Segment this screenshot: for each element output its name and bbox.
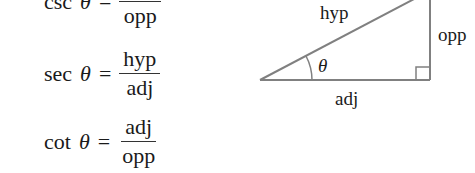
angle-arc bbox=[306, 56, 312, 80]
hypotenuse-label: hyp bbox=[320, 2, 349, 24]
angle-label: θ bbox=[318, 55, 327, 77]
right-angle-marker bbox=[416, 67, 430, 80]
opposite-label: opp bbox=[438, 24, 467, 46]
adjacent-label: adj bbox=[335, 88, 358, 110]
right-triangle-diagram bbox=[0, 0, 475, 173]
